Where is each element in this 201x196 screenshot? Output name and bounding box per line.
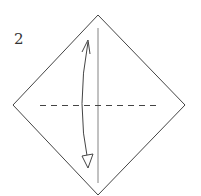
- fold-arrow-arc: [82, 42, 88, 162]
- origami-diagram: [0, 0, 201, 196]
- arrowhead-down-icon: [82, 154, 93, 168]
